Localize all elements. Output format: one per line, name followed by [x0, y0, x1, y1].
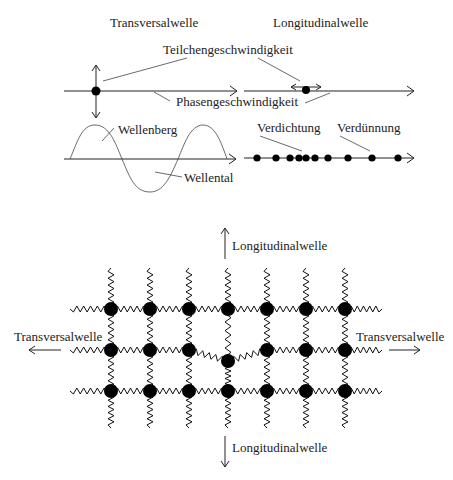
wave-diagram: Transversalwelle Longitudinalwelle Teilc… — [0, 0, 453, 480]
lattice-right-label: Transversalwelle — [356, 329, 445, 344]
compression-particle — [368, 154, 375, 161]
spring-lattice — [70, 268, 382, 428]
rarefaction-pointer — [340, 136, 370, 151]
arrow-up — [221, 228, 229, 259]
sine-axis-arrow — [64, 154, 236, 164]
lattice-node — [221, 384, 235, 398]
lattice-node — [182, 343, 196, 357]
arrow-right — [389, 346, 420, 354]
lattice-node — [143, 302, 157, 316]
trough-label: Wellental — [184, 170, 234, 185]
lattice-bottom-label: Longitudinalwelle — [232, 440, 328, 455]
arrow-left — [29, 346, 61, 354]
phase-velocity-pointer-right — [305, 93, 330, 103]
crest-pointer — [102, 128, 114, 141]
lattice-node — [182, 302, 196, 316]
lattice-node — [338, 384, 352, 398]
lattice-node — [338, 302, 352, 316]
lattice-node — [104, 343, 118, 357]
lattice-node — [143, 343, 157, 357]
compression-particle — [344, 154, 351, 161]
particle-velocity-label: Teilchengeschwindigkeit — [163, 42, 293, 57]
lattice-node — [143, 384, 157, 398]
particle-velocity-pointer-right — [258, 58, 300, 81]
lattice-left-label: Transversalwelle — [14, 329, 103, 344]
longitudinal-particle — [291, 84, 321, 94]
lattice-node — [338, 343, 352, 357]
compression-particle — [324, 154, 331, 161]
trough-pointer — [155, 172, 182, 177]
compression-particle — [295, 154, 302, 161]
arrow-down — [221, 436, 229, 467]
compression-pointer — [260, 136, 302, 151]
crest-label: Wellenberg — [118, 122, 178, 137]
lattice-node — [299, 302, 313, 316]
lattice-node — [299, 384, 313, 398]
transversal-particle — [92, 65, 101, 118]
compression-particle — [272, 154, 279, 161]
lattice-node — [299, 343, 313, 357]
lattice-node — [260, 302, 274, 316]
lattice-top-label: Longitudinalwelle — [232, 238, 328, 253]
lattice-node — [104, 384, 118, 398]
lattice-node — [260, 343, 274, 357]
compression-particle — [302, 154, 309, 161]
lattice-node — [104, 302, 118, 316]
compression-particle — [311, 154, 318, 161]
lattice-node — [182, 384, 196, 398]
compression-particle — [394, 154, 401, 161]
longitudinal-title: Longitudinalwelle — [273, 15, 369, 30]
lattice-node — [260, 384, 274, 398]
compression-particle — [286, 154, 293, 161]
lattice-node — [221, 302, 235, 316]
phase-velocity-label: Phasengeschwindigkeit — [176, 94, 298, 109]
spring — [225, 309, 231, 361]
transversal-title: Transversalwelle — [110, 15, 199, 30]
compression-label: Verdichtung — [257, 120, 321, 135]
lattice-node — [221, 354, 235, 368]
particle-velocity-pointer-left — [103, 58, 187, 81]
rarefaction-label: Verdünnung — [337, 120, 401, 135]
compression-particle — [253, 154, 260, 161]
phase-velocity-pointer-left — [154, 92, 170, 101]
